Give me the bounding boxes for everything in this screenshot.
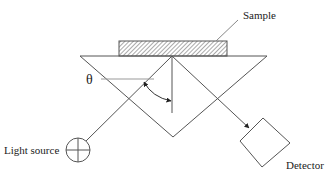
- light-source-icon: [66, 138, 90, 162]
- prism: [80, 56, 267, 137]
- detector-box: [240, 118, 290, 167]
- angle-arc: [144, 82, 171, 101]
- incident-ray: [86, 56, 172, 141]
- prism-diagram: Sample θ Light source Detector: [0, 0, 330, 173]
- light-source-label: Light source: [4, 144, 59, 156]
- reflected-ray: [172, 56, 249, 128]
- sample-label: Sample: [243, 9, 276, 21]
- sample-leader-line: [216, 20, 238, 41]
- theta-label: θ: [86, 72, 93, 87]
- sample-block: [119, 41, 227, 56]
- detector-label: Detector: [286, 159, 324, 171]
